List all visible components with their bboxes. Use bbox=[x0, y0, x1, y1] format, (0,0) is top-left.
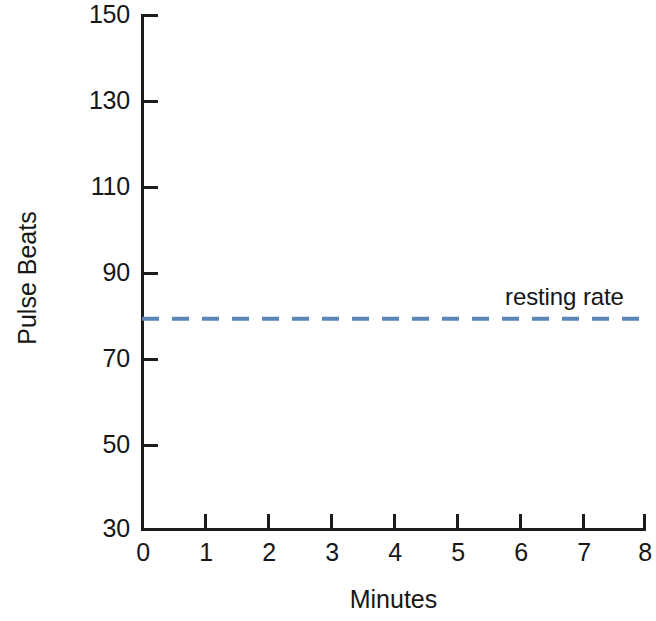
y-axis-tick-110 bbox=[144, 186, 158, 189]
y-axis-label-150: 150 bbox=[78, 2, 130, 27]
y-axis-label-110: 110 bbox=[78, 174, 130, 199]
x-axis-title: Minutes bbox=[141, 586, 646, 612]
y-axis-tick-150 bbox=[144, 14, 158, 17]
y-axis-label-90: 90 bbox=[78, 260, 130, 285]
y-axis-label-130: 130 bbox=[78, 88, 130, 113]
x-axis-tick-8 bbox=[643, 514, 646, 528]
x-axis-tick-4 bbox=[393, 514, 396, 528]
x-axis-label-4: 4 bbox=[375, 540, 415, 565]
y-axis-tick-70 bbox=[144, 358, 158, 361]
x-axis-tick-0 bbox=[141, 514, 144, 528]
x-axis-label-0: 0 bbox=[123, 540, 163, 565]
x-axis-label-1: 1 bbox=[186, 540, 226, 565]
x-axis-tick-6 bbox=[519, 514, 522, 528]
x-axis-label-7: 7 bbox=[564, 540, 604, 565]
x-axis-label-2: 2 bbox=[249, 540, 289, 565]
y-axis-label-50: 50 bbox=[78, 432, 130, 457]
y-axis-tick-90 bbox=[144, 272, 158, 275]
resting-rate-annotation: resting rate bbox=[505, 284, 624, 309]
x-axis-tick-5 bbox=[456, 514, 459, 528]
y-axis-tick-30 bbox=[144, 528, 158, 531]
y-axis-tick-50 bbox=[144, 444, 158, 447]
y-axis-label-70: 70 bbox=[78, 346, 130, 371]
y-axis-title: Pulse Beats bbox=[14, 163, 40, 393]
x-axis-label-3: 3 bbox=[312, 540, 352, 565]
x-axis-line bbox=[141, 528, 646, 531]
y-axis-tick-130 bbox=[144, 100, 158, 103]
x-axis-tick-1 bbox=[204, 514, 207, 528]
x-axis-tick-3 bbox=[330, 514, 333, 528]
x-axis-label-8: 8 bbox=[625, 540, 656, 565]
x-axis-label-6: 6 bbox=[501, 540, 541, 565]
x-axis-tick-2 bbox=[267, 514, 270, 528]
x-axis-label-5: 5 bbox=[438, 540, 478, 565]
y-axis-label-30: 30 bbox=[78, 516, 130, 541]
x-axis-tick-7 bbox=[582, 514, 585, 528]
